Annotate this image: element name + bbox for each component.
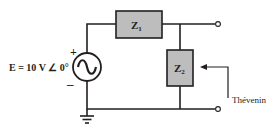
source-minus-sign: – bbox=[66, 76, 74, 91]
source-label: E = 10 V ∠ 0° bbox=[9, 62, 69, 73]
wire-bottom-rail bbox=[87, 81, 215, 109]
circuit-diagram: + – E = 10 V ∠ 0° Z1 Z2 Thévenin bbox=[0, 0, 279, 131]
ac-voltage-source-icon bbox=[73, 53, 101, 81]
thevenin-arrow-icon bbox=[200, 64, 228, 98]
ground-icon bbox=[80, 116, 94, 123]
impedance-z2: Z2 bbox=[167, 50, 193, 86]
impedance-z1: Z1 bbox=[116, 11, 162, 38]
terminal-top bbox=[216, 22, 221, 27]
wire-source-to-z1 bbox=[87, 24, 116, 53]
terminal-bottom bbox=[216, 107, 221, 112]
thevenin-label: Thévenin bbox=[232, 95, 266, 105]
source-plus-sign: + bbox=[70, 45, 77, 59]
